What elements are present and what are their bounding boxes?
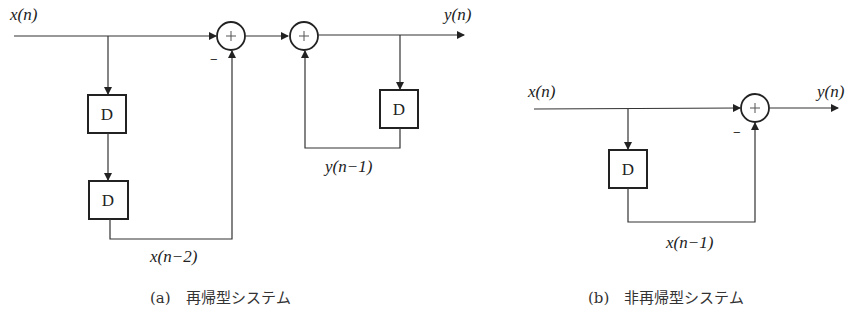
input-label-x-n-b: x(n) (527, 82, 556, 101)
minus-sign-summer-b: − (733, 125, 741, 140)
feedback-delay-label: D (393, 100, 405, 119)
panel-a-recursive-system: x(n) D D x(n−2) − y(n) D y( (9, 5, 472, 307)
caption-a: (a) 再帰型システム (150, 289, 291, 307)
output-label-y-n: y(n) (442, 5, 472, 24)
block-diagrams: x(n) D D x(n−2) − y(n) D y( (0, 0, 858, 320)
delay-1-label: D (101, 105, 113, 124)
input-label-x-n: x(n) (9, 5, 38, 24)
feedback-label-y-n-minus-1: y(n−1) (323, 157, 373, 176)
caption-b: (b) 非再帰型システム (588, 289, 744, 307)
minus-sign-summer-1: − (210, 52, 218, 67)
tap-label-x-n-minus-1: x(n−1) (665, 233, 714, 252)
delay-2-label: D (102, 191, 114, 210)
delay-b-label: D (622, 160, 634, 179)
panel-b-nonrecursive-system: x(n) D x(n−1) − y(n) (b) 非再帰型システム (527, 82, 845, 307)
input-signal-line-b (534, 108, 740, 109)
output-label-y-n-b: y(n) (815, 82, 845, 101)
tap-label-x-n-minus-2: x(n−2) (149, 247, 198, 266)
